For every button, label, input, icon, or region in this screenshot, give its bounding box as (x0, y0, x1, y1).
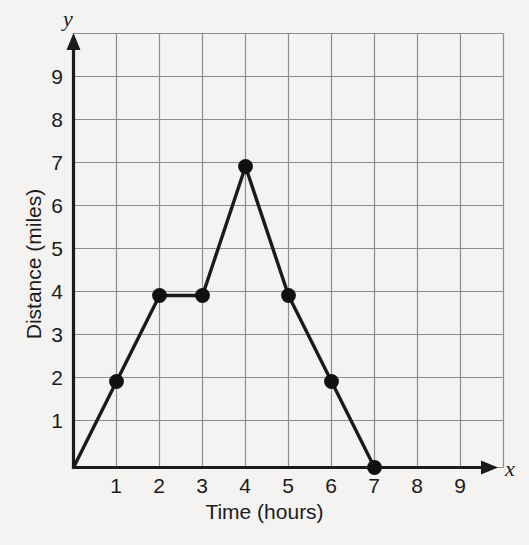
y-axis-arrowhead (67, 33, 81, 50)
x-axis-arrowhead (481, 461, 498, 475)
data-point (324, 374, 339, 389)
x-tick-label-5: 5 (273, 475, 303, 496)
y-axis-title: Distance (miles) (22, 144, 46, 384)
chart-canvas (0, 0, 529, 545)
x-tick-label-7: 7 (359, 475, 389, 496)
data-point (281, 288, 296, 303)
data-series-line (74, 167, 375, 468)
x-tick-label-9: 9 (445, 475, 475, 496)
y-axis-variable-label: y (63, 6, 73, 32)
x-tick-label-3: 3 (187, 475, 217, 496)
y-tick-label-8: 8 (33, 109, 63, 130)
axis-lines (74, 42, 490, 468)
x-tick-label-6: 6 (316, 475, 346, 496)
data-point (152, 288, 167, 303)
x-tick-label-1: 1 (101, 475, 131, 496)
chart-figure: y x 1 2 3 4 5 6 7 8 9 1 2 3 4 5 6 7 8 9 … (0, 0, 529, 545)
grid-lines-vertical (74, 34, 504, 468)
data-point (109, 374, 124, 389)
x-axis-variable-label: x (505, 456, 515, 482)
data-point (195, 288, 210, 303)
y-tick-label-9: 9 (33, 66, 63, 87)
y-tick-label-1: 1 (33, 410, 63, 431)
x-tick-label-8: 8 (402, 475, 432, 496)
x-tick-label-4: 4 (230, 475, 260, 496)
data-point (238, 159, 253, 174)
x-axis-title: Time (hours) (0, 500, 529, 524)
x-tick-label-2: 2 (144, 475, 174, 496)
data-point (367, 460, 382, 475)
